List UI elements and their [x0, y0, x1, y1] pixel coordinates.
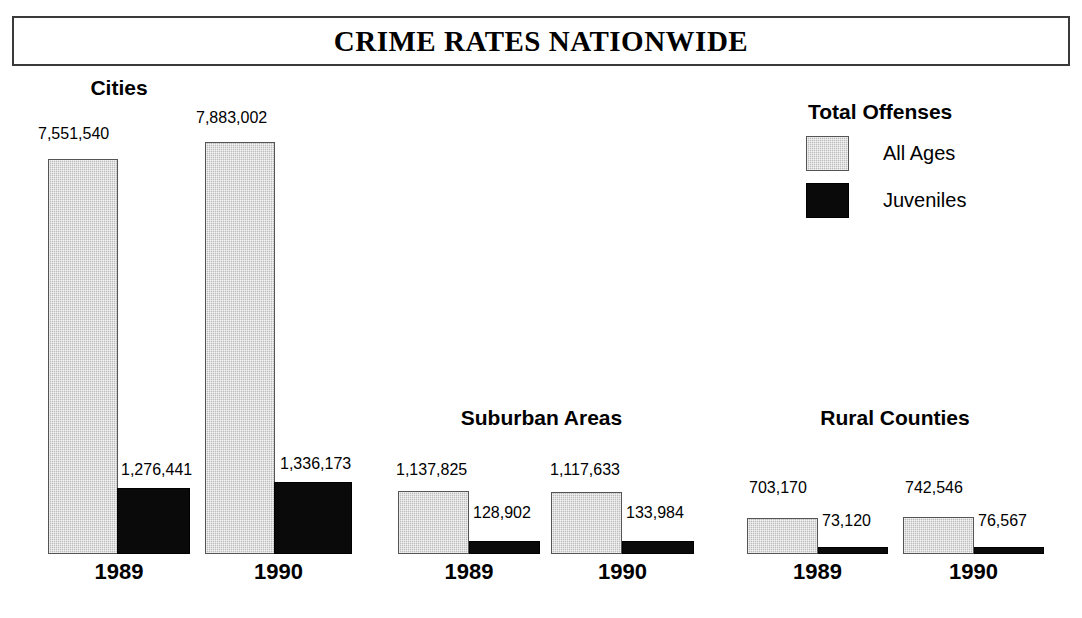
- bar-cities-1989-all-ages: [48, 159, 118, 554]
- bar-suburban-1989-all-ages: [398, 491, 469, 554]
- group-title-cities: Cities: [48, 76, 190, 100]
- value-label-cities-1989-juveniles: 1,276,441: [121, 462, 192, 478]
- legend-label-all-ages: All Ages: [883, 142, 955, 165]
- year-label-suburban-1990: 1990: [551, 559, 694, 585]
- chart-plot-area: Cities 7,551,540 1,276,441 1989 7,883,00…: [0, 0, 1082, 618]
- year-label-suburban-1989: 1989: [398, 559, 540, 585]
- year-label-cities-1989: 1989: [48, 559, 190, 585]
- value-label-suburban-1989-all-ages: 1,137,825: [396, 462, 467, 478]
- legend-item-juveniles: Juveniles: [806, 183, 1066, 218]
- bar-rural-1989-all-ages: [747, 518, 818, 554]
- chart-legend: Total Offenses All Ages Juveniles: [806, 100, 1066, 218]
- bar-rural-1989-juveniles: [818, 547, 888, 554]
- value-label-rural-1989-all-ages: 703,170: [749, 480, 807, 496]
- legend-swatch-juveniles: [806, 183, 849, 218]
- value-label-suburban-1990-juveniles: 133,984: [626, 505, 684, 521]
- bar-suburban-1990-juveniles: [622, 541, 694, 554]
- value-label-rural-1990-juveniles: 76,567: [978, 513, 1027, 529]
- value-label-rural-1989-juveniles: 73,120: [822, 513, 871, 529]
- value-label-suburban-1989-juveniles: 128,902: [473, 505, 531, 521]
- year-label-cities-1990: 1990: [205, 559, 352, 585]
- group-title-suburban-areas: Suburban Areas: [437, 406, 646, 430]
- year-label-rural-1990: 1990: [903, 559, 1044, 585]
- legend-item-all-ages: All Ages: [806, 136, 1066, 171]
- value-label-cities-1989-all-ages: 7,551,540: [38, 126, 109, 142]
- bar-suburban-1990-all-ages: [551, 492, 622, 554]
- legend-swatch-all-ages: [806, 136, 849, 171]
- legend-label-juveniles: Juveniles: [883, 189, 966, 212]
- bar-cities-1990-all-ages: [205, 142, 275, 554]
- legend-title: Total Offenses: [808, 100, 1066, 124]
- value-label-rural-1990-all-ages: 742,546: [905, 480, 963, 496]
- bar-cities-1990-juveniles: [274, 482, 352, 554]
- bar-rural-1990-juveniles: [974, 547, 1044, 554]
- bar-rural-1990-all-ages: [903, 517, 974, 554]
- group-title-rural-counties: Rural Counties: [790, 406, 1000, 430]
- year-label-rural-1989: 1989: [747, 559, 888, 585]
- bar-cities-1989-juveniles: [117, 488, 190, 554]
- value-label-suburban-1990-all-ages: 1,117,633: [550, 462, 620, 478]
- value-label-cities-1990-all-ages: 7,883,002: [196, 110, 267, 126]
- value-label-cities-1990-juveniles: 1,336,173: [280, 456, 351, 472]
- bar-suburban-1989-juveniles: [469, 541, 540, 554]
